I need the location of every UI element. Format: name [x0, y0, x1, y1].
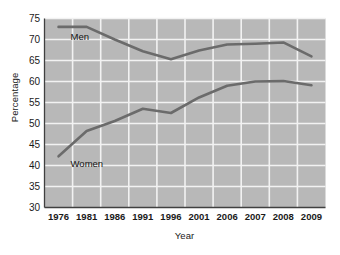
x-axis-tick-labels: 1976198119861991199620012006200720082009: [0, 0, 340, 255]
series-label-men: Men: [71, 32, 89, 42]
x-tick-2009: 2009: [291, 211, 331, 222]
y-axis-title: Percentage: [9, 58, 20, 138]
x-axis-title: Year: [44, 230, 325, 241]
line-chart: 30354045505560657075 1976198119861991199…: [0, 0, 340, 255]
series-label-women: Women: [71, 159, 104, 169]
